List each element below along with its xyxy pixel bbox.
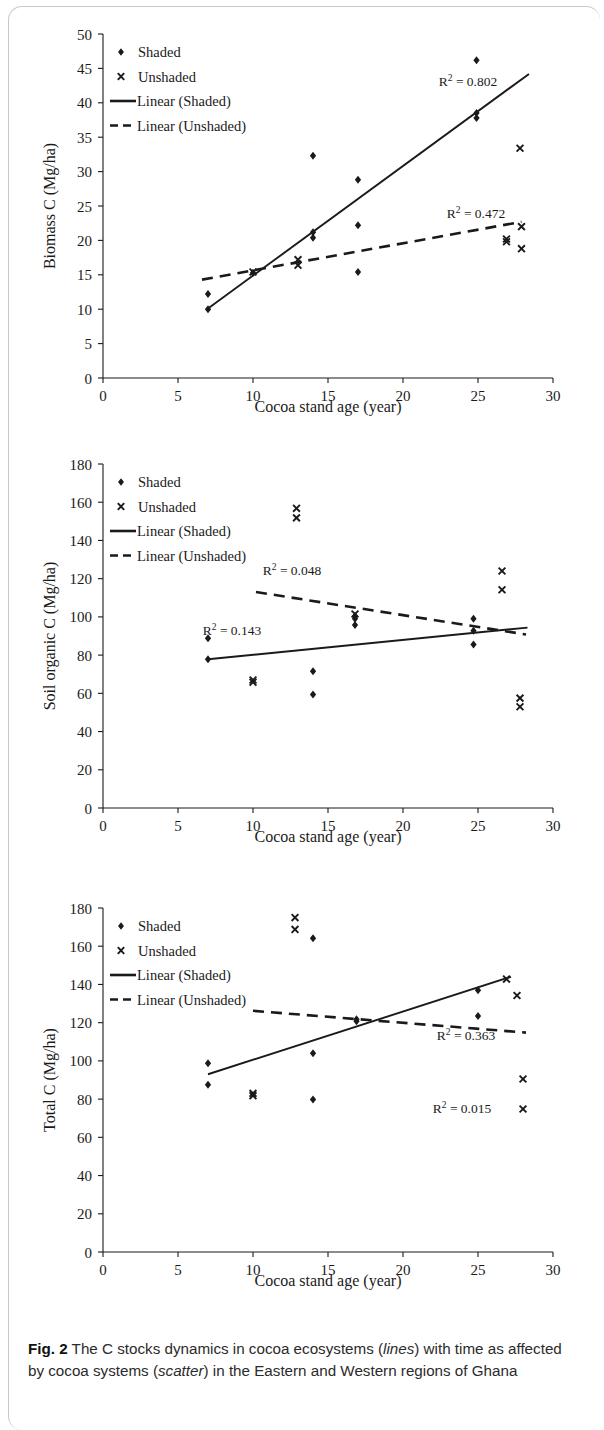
legend-label-shaded: Shaded xyxy=(138,474,181,490)
data-point-shaded xyxy=(310,152,316,160)
data-point-shaded xyxy=(205,290,211,298)
caption-part-4: ) in the Eastern and Western regions of … xyxy=(204,1362,518,1379)
x-tick-label: 5 xyxy=(174,1262,182,1278)
x-tick-label: 30 xyxy=(546,388,561,404)
x-tick-label: 5 xyxy=(174,818,182,834)
legend-label-linear-shaded: Linear (Shaded) xyxy=(137,93,231,110)
y-tick-label: 20 xyxy=(77,762,92,778)
x-tick-label: 30 xyxy=(546,1262,561,1278)
trendline-unshaded xyxy=(202,222,522,280)
data-point-shaded xyxy=(475,1012,481,1020)
y-tick-label: 80 xyxy=(77,1092,92,1108)
trendline-shaded xyxy=(208,977,511,1074)
y-tick-label: 120 xyxy=(70,571,93,587)
y-tick-label: 40 xyxy=(77,724,92,740)
y-tick-label: 140 xyxy=(70,533,93,549)
y-tick-label: 180 xyxy=(70,901,93,917)
trendline-unshaded xyxy=(256,592,526,634)
data-point-shaded xyxy=(310,667,316,675)
data-point-shaded xyxy=(473,114,479,122)
y-tick-label: 10 xyxy=(77,302,92,318)
y-tick-label: 120 xyxy=(70,1015,93,1031)
y-tick-label: 25 xyxy=(77,199,92,215)
x-axis-title: Cocoa stand age (year) xyxy=(254,1272,401,1290)
data-point-shaded xyxy=(310,1095,316,1103)
caption-part-1: lines xyxy=(383,1340,414,1357)
y-tick-label: 60 xyxy=(77,686,92,702)
legend-label-linear-unshaded: Linear (Unshaded) xyxy=(137,118,246,135)
y-tick-label: 40 xyxy=(77,95,92,111)
legend-label-unshaded: Unshaded xyxy=(138,943,197,959)
scatter-chart-biomass-c: 05101520253035404550051015202530Biomass … xyxy=(0,0,604,430)
data-point-shaded xyxy=(355,268,361,276)
r2-label-shaded: R2 = 0.802 xyxy=(439,73,498,89)
y-tick-label: 60 xyxy=(77,1130,92,1146)
x-axis-title: Cocoa stand age (year) xyxy=(254,828,401,846)
data-point-unshaded xyxy=(518,245,525,252)
figure-label: Fig. 2 xyxy=(28,1340,68,1357)
data-point-shaded xyxy=(355,221,361,229)
y-tick-label: 0 xyxy=(85,1245,93,1261)
y-tick-label: 0 xyxy=(85,801,93,817)
legend-label-linear-unshaded: Linear (Unshaded) xyxy=(137,548,246,565)
legend-label-unshaded: Unshaded xyxy=(138,499,197,515)
legend-label-linear-shaded: Linear (Shaded) xyxy=(137,523,231,540)
chart-block-total-c: 020406080100120140160180051015202530Tota… xyxy=(0,860,604,1290)
y-tick-label: 160 xyxy=(70,495,93,511)
data-point-shaded xyxy=(205,1059,211,1067)
data-point-unshaded xyxy=(520,1106,527,1113)
data-point-shaded xyxy=(205,655,211,663)
y-tick-label: 100 xyxy=(70,609,93,625)
data-point-unshaded xyxy=(293,505,300,512)
y-axis-title: Soil organic C (Mg/ha) xyxy=(41,562,59,711)
scatter-chart-soil-organic-c: 020406080100120140160180051015202530Soil… xyxy=(0,430,604,860)
data-point-shaded xyxy=(310,1049,316,1057)
data-point-unshaded xyxy=(499,568,506,575)
legend-marker-shaded xyxy=(118,922,124,930)
data-point-unshaded xyxy=(292,926,299,933)
data-point-shaded xyxy=(310,234,316,242)
data-point-shaded xyxy=(352,621,358,629)
data-point-shaded xyxy=(310,934,316,942)
y-tick-label: 35 xyxy=(77,130,92,146)
trendline-shaded xyxy=(208,74,529,309)
data-point-unshaded xyxy=(293,514,300,521)
y-tick-label: 100 xyxy=(70,1053,93,1069)
y-tick-label: 20 xyxy=(77,1206,92,1222)
legend-label-unshaded: Unshaded xyxy=(138,69,197,85)
data-point-unshaded xyxy=(517,695,524,702)
data-point-unshaded xyxy=(517,703,524,710)
data-point-unshaded xyxy=(514,992,521,999)
data-point-shaded xyxy=(205,1081,211,1089)
y-axis-title: Biomass C (Mg/ha) xyxy=(41,143,59,269)
r2-label-unshaded: R2 = 0.015 xyxy=(433,1100,492,1116)
y-tick-label: 180 xyxy=(70,457,93,473)
figure-chart-stack: 05101520253035404550051015202530Biomass … xyxy=(0,0,604,1290)
y-tick-label: 5 xyxy=(85,336,93,352)
legend-label-shaded: Shaded xyxy=(138,44,181,60)
x-axis-title: Cocoa stand age (year) xyxy=(254,398,401,416)
data-point-unshaded xyxy=(517,145,524,152)
x-tick-label: 25 xyxy=(471,818,486,834)
legend-marker-unshaded xyxy=(118,947,124,954)
figure-caption: Fig. 2 The C stocks dynamics in cocoa ec… xyxy=(28,1338,576,1381)
y-tick-label: 45 xyxy=(77,61,92,77)
data-point-shaded xyxy=(473,56,479,64)
r2-label-shaded: R2 = 0.143 xyxy=(203,622,262,638)
r2-label-shaded: R2 = 0.363 xyxy=(437,1027,496,1043)
data-point-shaded xyxy=(470,641,476,649)
caption-part-0: The C stocks dynamics in cocoa ecosystem… xyxy=(68,1340,383,1357)
y-tick-label: 20 xyxy=(77,233,92,249)
data-point-shaded xyxy=(470,615,476,623)
y-tick-label: 0 xyxy=(85,371,93,387)
legend-marker-unshaded xyxy=(118,73,124,80)
caption-part-3: scatter xyxy=(158,1362,204,1379)
data-point-unshaded xyxy=(520,1076,527,1083)
y-tick-label: 50 xyxy=(77,27,92,43)
data-point-unshaded xyxy=(518,223,525,230)
data-point-shaded xyxy=(355,176,361,184)
data-point-unshaded xyxy=(499,586,506,593)
legend-label-shaded: Shaded xyxy=(138,918,181,934)
legend-label-linear-shaded: Linear (Shaded) xyxy=(137,967,231,984)
r2-label-unshaded: R2 = 0.472 xyxy=(447,205,506,221)
